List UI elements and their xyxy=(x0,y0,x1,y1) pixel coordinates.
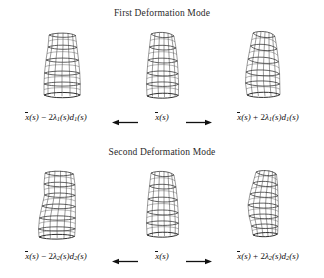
shape-slot-mean-1 xyxy=(112,26,212,108)
barrel-wireframe-minus-mode-1-icon xyxy=(35,26,89,108)
arg: (s) xyxy=(159,112,169,122)
shape-slot-plus-mode-1 xyxy=(212,26,312,108)
arrow-to-plus-mode-2 xyxy=(186,257,212,266)
equation-plus-mode-1: x(s) + 2λ1(s)d1(s) xyxy=(212,112,324,122)
panel-second-deformation-mode: Second Deformation Mode xyxy=(0,139,324,278)
arg: (s) xyxy=(241,251,251,261)
arg: (s) xyxy=(241,112,251,122)
shape-slot-minus-mode-2 xyxy=(12,165,112,247)
shape-row-second xyxy=(0,165,324,247)
mean-symbol: x xyxy=(155,251,159,261)
barrel-wireframe-plus-mode-1-icon xyxy=(233,26,291,108)
arg: (s) xyxy=(29,251,39,261)
arrow-to-plus-mode-1 xyxy=(186,118,212,127)
shape-slot-minus-mode-1 xyxy=(12,26,112,108)
equation-minus-mode-1: x(s) − 2λ1(s)d1(s) xyxy=(0,112,112,122)
shape-row-first xyxy=(0,26,324,108)
arg: (s) xyxy=(289,251,299,261)
barrel-wireframe-minus-mode-2-icon xyxy=(31,165,93,247)
label-row-second: x(s) − 2λ2(s)d2(s) x(s) x(s) xyxy=(0,249,324,271)
arrow-right-icon xyxy=(186,257,212,266)
arg: (s) xyxy=(77,251,87,261)
deformation-modes-figure: First Deformation Mode xyxy=(0,0,324,278)
operator: − xyxy=(41,251,46,261)
equation-mean-2: x(s) xyxy=(134,251,190,261)
shape-slot-plus-mode-2 xyxy=(212,165,312,247)
panel-title-first: First Deformation Mode xyxy=(0,8,324,18)
arg: (s) xyxy=(29,112,39,122)
equation-plus-mode-2: x(s) + 2λ2(s)d2(s) xyxy=(212,251,324,261)
barrel-wireframe-plus-mode-2-icon xyxy=(234,165,290,247)
mean-symbol: x xyxy=(237,251,241,261)
panel-title-second: Second Deformation Mode xyxy=(0,147,324,157)
arg: (s) xyxy=(77,112,87,122)
mean-symbol: x xyxy=(25,251,29,261)
equation-mean-1: x(s) xyxy=(134,112,190,122)
mean-symbol: x xyxy=(155,112,159,122)
panel-first-deformation-mode: First Deformation Mode xyxy=(0,0,324,139)
mean-symbol: x xyxy=(237,112,241,122)
mean-symbol: x xyxy=(25,112,29,122)
equation-minus-mode-2: x(s) − 2λ2(s)d2(s) xyxy=(0,251,112,261)
label-row-first: x(s) − 2λ1(s)d1(s) x(s) x(s) xyxy=(0,110,324,132)
shape-slot-mean-2 xyxy=(112,165,212,247)
arrow-right-icon xyxy=(186,118,212,127)
arg: (s) xyxy=(159,251,169,261)
operator: − xyxy=(41,112,46,122)
operator: + xyxy=(253,112,258,122)
arg: (s) xyxy=(289,112,299,122)
operator: + xyxy=(253,251,258,261)
barrel-wireframe-mean-2-icon xyxy=(135,165,189,247)
barrel-wireframe-mean-1-icon xyxy=(135,26,189,108)
